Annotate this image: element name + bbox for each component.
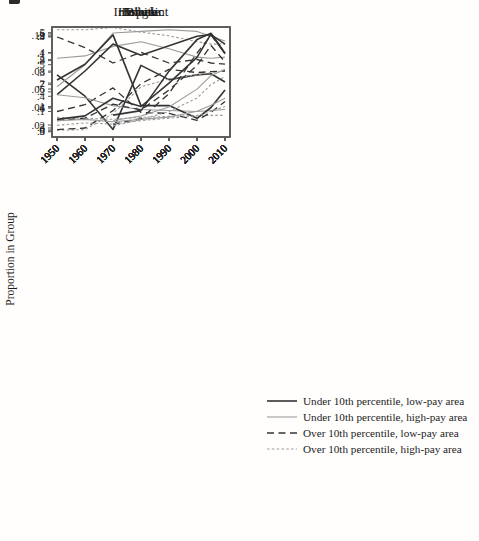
legend-item: Over 10th percentile, high-pay area xyxy=(266,441,467,457)
legend-line-sample-gray-solid xyxy=(266,412,298,422)
legend-line-sample-gray-dash xyxy=(266,444,298,454)
x-tick-label: 2010 xyxy=(206,142,230,166)
legend-item-label: Over 10th percentile, high-pay area xyxy=(303,443,462,455)
y-tick-label: 0 xyxy=(40,123,45,135)
x-tick-label: 1980 xyxy=(122,142,146,166)
x-tick-label: 1960 xyxy=(66,142,90,166)
panel-hispanic: Hispanic0.1.2.3.419501960197019801990200… xyxy=(0,0,239,181)
legend: Under 10th percentile, low-pay area Unde… xyxy=(266,393,467,457)
legend-line-sample-dark-dash xyxy=(266,428,298,438)
panel-title: Hispanic xyxy=(118,4,164,19)
y-axis-label: Proportion in Group xyxy=(4,212,16,305)
y-tick-label: .2 xyxy=(37,77,45,89)
x-tick-label: 1990 xyxy=(150,142,174,166)
legend-line-sample-dark-solid xyxy=(266,396,298,406)
legend-item: Under 10th percentile, low-pay area xyxy=(266,393,467,409)
series-line-dark-dash xyxy=(57,46,225,121)
x-tick-label: 1970 xyxy=(94,142,118,166)
legend-item-label: Over 10th percentile, low-pay area xyxy=(303,427,459,439)
legend-item-label: Under 10th percentile, high-pay area xyxy=(303,411,467,423)
y-tick-label: .1 xyxy=(37,100,45,112)
x-tick-label: 2000 xyxy=(178,142,202,166)
legend-item: Under 10th percentile, high-pay area xyxy=(266,409,467,425)
plot-frame xyxy=(52,27,230,137)
legend-item-label: Under 10th percentile, low-pay area xyxy=(303,395,464,407)
y-tick-label: .3 xyxy=(37,53,45,65)
legend-item: Over 10th percentile, low-pay area xyxy=(266,425,467,441)
series-line-dark-solid xyxy=(57,34,225,120)
y-tick-label: .4 xyxy=(37,30,46,42)
x-tick-label: 1950 xyxy=(38,142,62,166)
hispanic-chart: Hispanic0.1.2.3.419501960197019801990200… xyxy=(0,0,239,181)
